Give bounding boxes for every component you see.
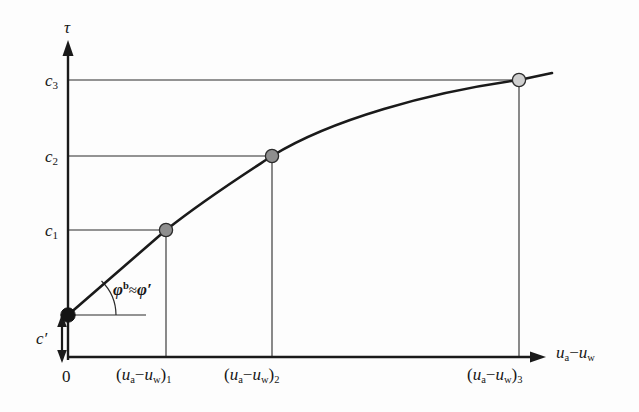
x-tick-3-ua: u — [473, 365, 482, 384]
x-axis-arrowhead — [530, 352, 546, 363]
x-tick-2-uw: u — [252, 365, 261, 384]
origin-tick-label: 0 — [62, 368, 71, 385]
cohesion-intercept-label: c′ — [36, 330, 47, 347]
x-tick-1-sub-a: a — [130, 374, 135, 385]
y-tick-c2-sub: 2 — [53, 155, 59, 167]
x-tick-2-minus: − — [243, 365, 253, 384]
x-tick-2-sub-a: a — [238, 374, 243, 385]
y-axis-arrowhead — [63, 40, 74, 56]
x-axis-ua: u — [556, 343, 565, 362]
y-axis-label: τ — [64, 19, 70, 36]
x-tick-2-ua: u — [230, 365, 239, 384]
x-tick-1-minus: − — [135, 365, 145, 384]
y-tick-label-c2: c2 — [45, 148, 58, 165]
strength-envelope-curve — [68, 73, 552, 315]
y-tick-label-c1: c1 — [45, 222, 58, 239]
x-tick-1-uw: u — [144, 365, 153, 384]
x-tick-3-sub-a: a — [481, 374, 486, 385]
x-axis-uw: u — [579, 343, 588, 362]
x-axis-sub-a: a — [565, 352, 570, 363]
x-tick-label-1: (ua−uw)1 — [116, 366, 171, 383]
cohesion-arrow-head-down — [57, 350, 67, 363]
marker-point-1 — [159, 223, 172, 236]
x-tick-label-3: (ua−uw)3 — [467, 366, 522, 383]
x-tick-1-index: 1 — [166, 374, 171, 385]
phi-prime-symbol: φ′ — [137, 280, 152, 299]
y-tick-c3-sub: 3 — [53, 79, 59, 91]
shear-strength-figure: τ c3 c2 c1 c′ φb≈φ′ 0 (ua−uw)1 (ua−uw)2 … — [0, 0, 639, 412]
x-tick-2-index: 2 — [274, 374, 279, 385]
phi-b-superscript: b — [123, 280, 129, 291]
phi-b-symbol: φ — [113, 280, 123, 299]
x-tick-3-index: 3 — [517, 374, 522, 385]
x-tick-3-sub-w: w — [504, 374, 512, 385]
x-axis-label: ua−uw — [556, 344, 595, 361]
x-tick-3-uw: u — [495, 365, 504, 384]
x-tick-2-sub-w: w — [261, 374, 269, 385]
x-tick-1-sub-w: w — [153, 374, 161, 385]
marker-point-3 — [512, 73, 525, 86]
friction-angle-label: φb≈φ′ — [113, 281, 152, 298]
y-tick-label-c3: c3 — [45, 72, 58, 89]
approx-sign: ≈ — [129, 282, 137, 298]
plot-canvas — [0, 0, 639, 412]
y-tick-c3-base: c — [45, 71, 53, 90]
x-tick-1-ua: u — [122, 365, 131, 384]
x-axis-sub-w: w — [587, 352, 595, 363]
marker-origin — [61, 308, 75, 322]
y-tick-c1-base: c — [45, 221, 53, 240]
x-tick-3-minus: − — [486, 365, 496, 384]
y-tick-c1-sub: 1 — [53, 229, 59, 241]
x-axis-minus: − — [569, 343, 579, 362]
y-tick-c2-base: c — [45, 147, 53, 166]
marker-point-2 — [265, 149, 278, 162]
x-tick-label-2: (ua−uw)2 — [224, 366, 279, 383]
